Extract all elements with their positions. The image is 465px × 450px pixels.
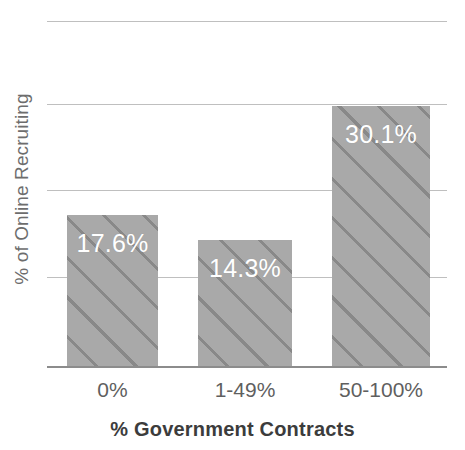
y-axis-title: % of Online Recruiting [0,0,44,378]
x-tick-label-0pct: 0% [67,378,158,402]
x-tick-label-1-49pct: 1-49% [198,378,292,402]
x-axis-line [47,366,447,368]
y-axis-title-text: % of Online Recruiting [11,93,33,284]
bar-50-100pct[interactable]: 30.1% [332,106,430,367]
gridline-40 [47,21,447,22]
bar-value-label: 14.3% [198,254,292,283]
x-tick-label-50-100pct: 50-100% [332,378,430,402]
plot-area: 17.6% 14.3% 30.1% [47,21,447,367]
bar-value-label: 30.1% [332,120,430,149]
bar-0pct[interactable]: 17.6% [67,215,158,367]
gridline-30 [47,104,447,105]
x-axis-title: % Government Contracts [0,418,465,441]
bar-value-label: 17.6% [67,229,158,258]
bar-1-49pct[interactable]: 14.3% [198,240,292,367]
bar-chart: % of Online Recruiting 17.6% 14.3% 30.1%… [0,0,465,450]
